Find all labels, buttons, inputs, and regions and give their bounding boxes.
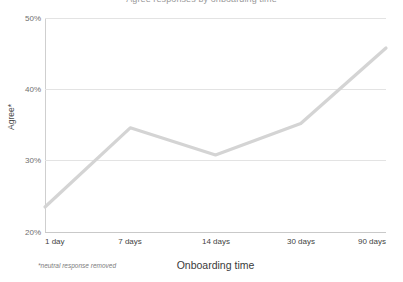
plot-area	[45, 18, 386, 232]
series-line-agree	[45, 18, 386, 232]
x-tick-7-days: 7 days	[118, 237, 142, 246]
chart-title: Agree responses by onboarding time	[0, 0, 403, 4]
x-axis-ticks: 1 day 7 days 14 days 30 days 90 days	[45, 237, 386, 251]
line-chart: Agree responses by onboarding time 50% 4…	[0, 0, 403, 282]
x-tick-90-days: 90 days	[358, 237, 386, 246]
x-tick-30-days: 30 days	[287, 237, 315, 246]
x-axis-line	[45, 232, 386, 233]
x-tick-1-day: 1 day	[45, 237, 65, 246]
y-axis-title: Agree*	[6, 87, 16, 147]
y-tick-20: 20%	[3, 228, 41, 237]
chart-footnote: *neutral response removed	[38, 262, 116, 269]
x-tick-14-days: 14 days	[202, 237, 230, 246]
y-tick-30: 30%	[3, 156, 41, 165]
y-tick-50: 50%	[3, 14, 41, 23]
